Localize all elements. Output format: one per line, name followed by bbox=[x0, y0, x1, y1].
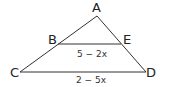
segment-be-length: 5 − 2x bbox=[77, 49, 108, 59]
vertex-label-c: C bbox=[10, 65, 19, 80]
triangle-diagram: A B E C D 5 − 2x 2 − 5x bbox=[0, 0, 169, 87]
vertex-label-b: B bbox=[48, 32, 57, 47]
vertex-label-d: D bbox=[146, 65, 156, 80]
vertex-label-e: E bbox=[123, 32, 131, 47]
segment-cd-length: 2 − 5x bbox=[76, 75, 107, 85]
vertex-label-a: A bbox=[92, 0, 101, 15]
